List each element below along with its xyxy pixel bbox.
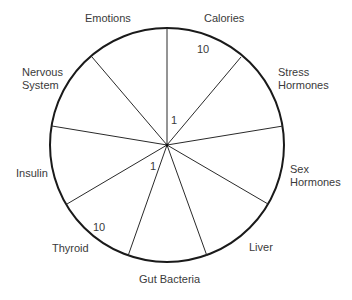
spoke (128, 145, 167, 256)
label-calories: Calories (204, 12, 244, 25)
label-stress-hormones: StressHormones (278, 66, 329, 92)
wheel-center (166, 144, 169, 147)
spoke (52, 126, 167, 145)
scale-inner-1b: 1 (150, 160, 156, 172)
scale-inner-1: 1 (171, 114, 177, 126)
label-gut-bacteria: Gut Bacteria (139, 273, 200, 286)
spoke (92, 57, 167, 145)
scale-outer-10b: 10 (93, 221, 105, 233)
label-insulin: Insulin (16, 167, 48, 180)
wheel-diagram (0, 0, 352, 300)
spoke (167, 57, 241, 145)
label-sex-hormones: SexHormones (290, 163, 341, 189)
label-thyroid: Thyroid (52, 242, 89, 255)
spoke (167, 145, 268, 204)
scale-outer-10: 10 (197, 43, 209, 55)
label-liver: Liver (249, 241, 273, 254)
spoke (167, 145, 207, 256)
spoke (167, 126, 283, 145)
label-nervous-system: NervousSystem (22, 66, 63, 92)
label-emotions: Emotions (85, 12, 131, 25)
spoke (67, 145, 167, 204)
